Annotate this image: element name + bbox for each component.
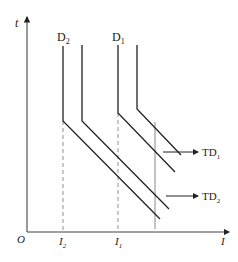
td1-label: TD1: [202, 146, 221, 161]
td2-label: TD2: [202, 190, 221, 205]
d2-label: D2: [57, 30, 70, 46]
d1-curve-2: [137, 45, 181, 155]
d1-label: D1: [112, 30, 125, 46]
y-axis-label: t: [15, 16, 19, 30]
origin-label: O: [17, 233, 25, 245]
d1-curve-1: [118, 45, 175, 172]
d2-curve-1: [63, 46, 160, 219]
x-axis-label: I: [220, 235, 226, 247]
i2-tick-label: I2: [58, 235, 67, 250]
i1-tick-label: I1: [114, 235, 122, 250]
demand-diagram: t O I D2 D1 I2 I1 TD1 TD2: [0, 0, 238, 262]
